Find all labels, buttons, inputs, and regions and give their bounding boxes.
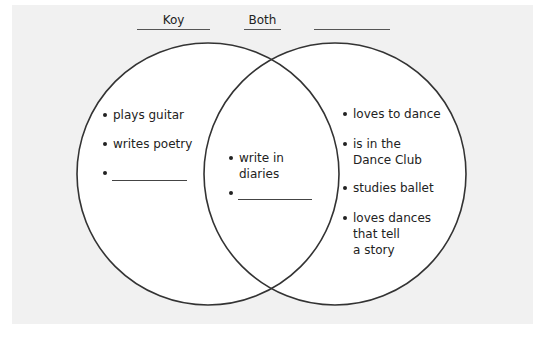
left-blank-line[interactable]: [112, 180, 187, 181]
right-item: studies ballet: [343, 180, 434, 196]
overlap-blank-line[interactable]: [238, 199, 312, 200]
header-left-label: Koy: [163, 13, 185, 27]
left-item: writes poetry: [103, 136, 192, 152]
header-right[interactable]: [314, 13, 390, 30]
right-item: loves to dance: [343, 106, 441, 122]
bullet-icon: [343, 112, 347, 116]
bullet-icon: [343, 186, 347, 190]
header-right-line: [314, 29, 390, 30]
bullet-icon: [229, 156, 233, 160]
header-left-line: [137, 29, 210, 30]
left-item: plays guitar: [103, 107, 184, 123]
header-center-line: [244, 29, 281, 30]
right-item: is in the Dance Club: [343, 136, 422, 168]
right-item: loves dances that tell a story: [343, 210, 431, 258]
header-center[interactable]: Both: [244, 13, 281, 30]
overlap-item: write in diaries: [229, 150, 284, 182]
bullet-icon: [343, 142, 347, 146]
bullet-icon: [103, 171, 107, 175]
header-left[interactable]: Koy: [137, 13, 210, 30]
bullet-icon: [103, 142, 107, 146]
header-center-label: Both: [249, 13, 277, 27]
bullet-icon: [343, 216, 347, 220]
bullet-icon: [229, 191, 233, 195]
bullet-icon: [103, 113, 107, 117]
